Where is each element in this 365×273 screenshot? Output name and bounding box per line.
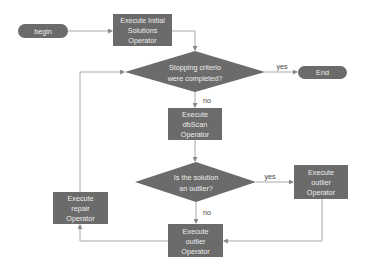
flowchart-canvas: yes no yes no begin Execute Initial Solu… — [0, 0, 365, 273]
node-initial-line-3: Operator — [128, 36, 157, 45]
node-stop-check-line-2: were completed? — [167, 74, 223, 83]
edge-label-outlier-yes: yes — [264, 172, 276, 181]
node-initial-line-2: Solutions — [128, 26, 158, 35]
node-outlier-bottom-line-2: outlier — [186, 237, 206, 246]
edge-initial-to-stop-check — [172, 31, 195, 50]
node-dbscan-line-2: dbScan — [183, 120, 207, 129]
node-dbscan-line-3: Operator — [181, 130, 210, 139]
node-outlier-right-line-2: outlier — [311, 178, 331, 187]
node-dbscan-line-1: Execute — [182, 110, 208, 119]
node-outlier-right-line-3: Operator — [307, 188, 336, 197]
edge-label-outlier-no: no — [203, 208, 211, 217]
edge-outlier-right-to-bottom — [224, 199, 322, 241]
node-outlier-bottom-line-1: Execute — [183, 227, 209, 236]
node-repair-line-1: Execute — [68, 194, 94, 203]
node-end-label: End — [316, 68, 329, 77]
node-outlier-check-line-1: Is the solution — [174, 173, 218, 182]
node-outlier-check — [135, 162, 256, 202]
node-outlier-check-line-2: an outlier? — [179, 184, 213, 193]
node-repair-line-2: repair — [71, 204, 90, 213]
node-begin-label: begin — [34, 27, 52, 36]
edge-label-stop-yes: yes — [276, 62, 288, 71]
edge-bottom-to-repair — [80, 225, 168, 241]
node-initial-line-1: Execute Initial — [120, 16, 165, 25]
node-outlier-bottom-line-3: Operator — [181, 247, 210, 256]
node-stop-check-line-1: Stopping criterio — [169, 63, 221, 72]
node-repair-line-3: Operator — [66, 214, 95, 223]
edge-label-stop-no: no — [203, 96, 211, 105]
node-outlier-right-line-1: Execute — [308, 168, 334, 177]
edge-repair-to-stop-check — [80, 72, 124, 192]
